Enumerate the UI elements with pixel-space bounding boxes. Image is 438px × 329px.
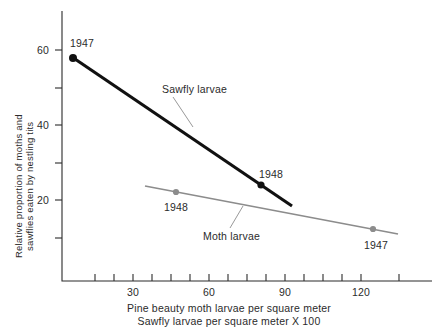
sawfly-1947-label: 1947 <box>70 37 94 49</box>
x-tick-label-60: 60 <box>203 286 215 298</box>
moth-larvae-point-1948 <box>173 189 179 195</box>
y-tick-label-60: 60 <box>37 44 49 56</box>
y-axis-title-line-1: Relative proportion of moths and <box>13 114 24 258</box>
x-axis-caption-line-1: Pine beauty moth larvae per square meter <box>127 302 331 314</box>
series-sawfly-larvae <box>69 54 292 206</box>
sawfly-series-label: Sawfly larvae <box>162 83 227 95</box>
moth-series-label: Moth larvae <box>203 230 260 242</box>
sawfly-1948-label: 1948 <box>259 168 283 180</box>
moth-1947-label: 1947 <box>364 239 388 251</box>
x-tick-label-90: 90 <box>279 286 291 298</box>
moth-larvae-point-1947 <box>370 226 376 232</box>
sawfly-larvae-point-1948 <box>257 181 264 188</box>
y-tick-label-20: 20 <box>37 194 49 206</box>
sawfly-larvae-point-1947 <box>69 54 77 62</box>
y-axis-title-line-2: sawflies eaten by nestling tits <box>24 122 35 251</box>
sawfly-label-leader-line <box>173 97 193 127</box>
x-tick-labels: 30 60 90 120 <box>127 286 370 298</box>
series-annotations: Sawfly larvae Moth larvae <box>162 83 260 242</box>
x-tick-label-30: 30 <box>127 286 139 298</box>
y-axis-title: Relative proportion of moths and sawflie… <box>13 114 35 258</box>
chart-canvas: 60 40 20 30 60 90 120 Relative proportio… <box>0 0 438 329</box>
y-tick-labels: 60 40 20 <box>37 44 49 206</box>
moth-label-leader-line <box>230 206 243 228</box>
moth-1948-label: 1948 <box>164 201 188 213</box>
y-tick-label-40: 40 <box>37 119 49 131</box>
x-axis-caption-line-2: Sawfly larvae per square meter X 100 <box>138 315 321 327</box>
chart-figure: 60 40 20 30 60 90 120 Relative proportio… <box>0 0 438 329</box>
x-axis-caption: Pine beauty moth larvae per square meter… <box>127 302 331 327</box>
x-tick-label-120: 120 <box>352 286 370 298</box>
point-year-labels: 1947 1948 1948 1947 <box>70 37 388 251</box>
